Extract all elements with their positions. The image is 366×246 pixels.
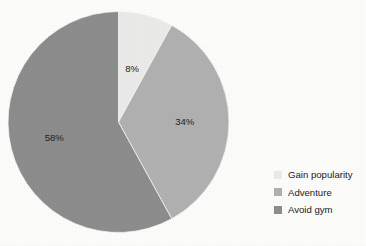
legend-swatch-icon [274, 206, 282, 214]
legend-swatch-icon [274, 171, 282, 179]
pie-slice-data-label: 8% [125, 63, 139, 74]
pie-slice-data-label: 34% [175, 116, 195, 127]
legend-item[interactable]: Avoid gym [274, 204, 353, 215]
legend-item-label: Avoid gym [288, 204, 333, 215]
legend-item[interactable]: Gain popularity [274, 169, 353, 180]
pie-slice-data-label: 58% [45, 132, 65, 143]
legend-item[interactable]: Adventure [274, 187, 353, 198]
legend-item-label: Gain popularity [288, 169, 353, 180]
legend-item-label: Adventure [288, 187, 332, 198]
pie-slice-group [8, 12, 229, 233]
pie-chart-figure: 8%34%58% Gain popularityAdventureAvoid g… [0, 0, 366, 246]
chart-legend: Gain popularityAdventureAvoid gym [274, 169, 353, 215]
legend-swatch-icon [274, 188, 282, 196]
